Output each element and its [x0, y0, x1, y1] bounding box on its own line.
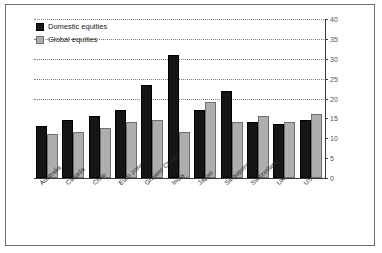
- bar-global: [205, 102, 216, 178]
- bar-domestic: [89, 116, 100, 178]
- y-tick-label-0: 0: [330, 175, 334, 182]
- bar-domestic: [36, 126, 47, 178]
- bar-domestic: [247, 122, 258, 178]
- chart-legend: Domestic equities Global equities: [36, 21, 107, 47]
- bar-domestic: [300, 120, 311, 178]
- y-tick-mark-10: [325, 138, 328, 139]
- bar-group: [194, 19, 217, 178]
- y-tick-label-15: 15: [330, 115, 338, 122]
- legend-label-domestic: Domestic equities: [48, 23, 107, 31]
- bar-domestic: [115, 110, 126, 178]
- y-tick-label-10: 10: [330, 135, 338, 142]
- legend-item-global: Global equities: [36, 34, 107, 45]
- y-tick-mark-30: [325, 59, 328, 60]
- figure-frame: 0510152025303540 AustraliaCanadaChileEur…: [5, 4, 375, 246]
- bar-group: [115, 19, 138, 178]
- y-tick-label-20: 20: [330, 95, 338, 102]
- y-tick-label-40: 40: [330, 16, 338, 23]
- bar-group: [273, 19, 296, 178]
- bar-domestic: [273, 124, 284, 178]
- bar-global: [311, 114, 322, 178]
- legend-label-global: Global equities: [48, 36, 98, 44]
- bar-group: [221, 19, 244, 178]
- y-tick-label-35: 35: [330, 35, 338, 42]
- y-tick-mark-0: [325, 178, 328, 179]
- y-tick-mark-20: [325, 99, 328, 100]
- y-tick-mark-25: [325, 79, 328, 80]
- y-tick-label-25: 25: [330, 75, 338, 82]
- bar-group: [141, 19, 164, 178]
- bar-domestic: [221, 91, 232, 178]
- bar-group: [247, 19, 270, 178]
- y-tick-mark-40: [325, 19, 328, 20]
- legend-swatch-domestic-icon: [36, 23, 44, 31]
- y-tick-mark-15: [325, 118, 328, 119]
- chart-screenshot: 0510152025303540 AustraliaCanadaChileEur…: [0, 0, 382, 253]
- bar-domestic: [62, 120, 73, 178]
- bar-global: [284, 122, 295, 178]
- legend-swatch-global-icon: [36, 36, 44, 44]
- y-tick-mark-5: [325, 158, 328, 159]
- legend-item-domestic: Domestic equities: [36, 21, 107, 32]
- bar-group: [300, 19, 323, 178]
- y-tick-label-5: 5: [330, 155, 334, 162]
- bar-domestic: [194, 110, 205, 178]
- y-tick-label-30: 30: [330, 55, 338, 62]
- y-tick-mark-35: [325, 39, 328, 40]
